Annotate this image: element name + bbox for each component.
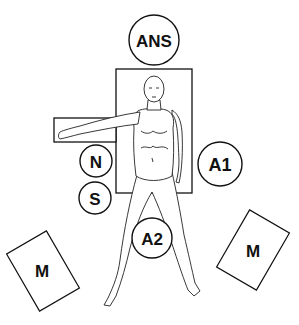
station-a2: A2 xyxy=(132,218,172,258)
svg-text:A1: A1 xyxy=(208,155,231,175)
station-m-left-label: M xyxy=(35,262,49,281)
station-ans: ANS xyxy=(129,15,179,65)
station-a1: A1 xyxy=(198,142,242,186)
station-s: S xyxy=(79,182,111,214)
svg-text:A2: A2 xyxy=(141,230,163,249)
svg-text:N: N xyxy=(90,153,102,172)
station-n: N xyxy=(80,145,112,177)
patient-figure xyxy=(59,76,201,306)
svg-text:S: S xyxy=(89,190,100,209)
station-m-right-label: M xyxy=(246,242,260,261)
svg-text:ANS: ANS xyxy=(136,32,172,51)
operating-room-diagram: ANS N S A1 A2 M M xyxy=(0,0,299,325)
